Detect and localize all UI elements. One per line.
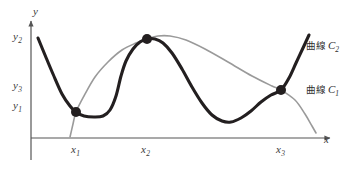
legend-c2-symbol: C2 <box>328 39 339 51</box>
legend-c1-symbol: C1 <box>328 83 339 95</box>
y-tick-label-y3: y3 <box>13 80 22 91</box>
y1-sub: 1 <box>18 105 22 114</box>
intersection-x1-dot <box>71 107 81 117</box>
legend-c2-symbol-sub: 2 <box>335 45 339 54</box>
y-tick-label-y1: y1 <box>13 100 22 111</box>
legend-label-curve-c2: 曲線C2 <box>306 40 339 52</box>
x-tick-label-x1: x1 <box>71 144 80 155</box>
x-tick-label-x2: x2 <box>141 144 150 155</box>
graph-figure: y x y2 y3 y1 x1 x2 x3 曲線C2 曲線C1 <box>0 0 359 174</box>
x-axis-label: x <box>324 134 329 145</box>
y2-sub: 2 <box>18 36 22 45</box>
legend-c2-word: 曲線 <box>306 40 326 51</box>
x2-sub: 2 <box>146 149 150 158</box>
intersection-x3-dot <box>276 85 286 95</box>
y3-sub: 3 <box>18 85 22 94</box>
intersection-x2-dot <box>142 34 152 44</box>
x1-sub: 1 <box>76 149 80 158</box>
legend-c1-word: 曲線 <box>306 84 326 95</box>
y-axis-label: y <box>33 6 38 17</box>
intersection-markers <box>71 34 286 117</box>
y-tick-label-y2: y2 <box>13 31 22 42</box>
legend-c1-symbol-sub: 1 <box>335 89 339 98</box>
legend-label-curve-c1: 曲線C1 <box>306 84 339 96</box>
x3-sub: 3 <box>281 149 285 158</box>
x-tick-label-x3: x3 <box>276 144 285 155</box>
